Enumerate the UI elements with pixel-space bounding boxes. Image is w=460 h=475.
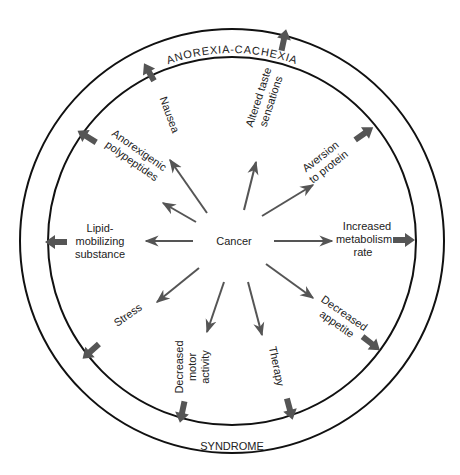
ring-title-bottom: SYNDROME bbox=[200, 440, 264, 452]
svg-text:substance: substance bbox=[75, 248, 125, 260]
factor-nausea: Nausea bbox=[158, 95, 183, 136]
factor-therapy: Therapy bbox=[267, 345, 287, 387]
thick-arrow-appetite bbox=[358, 331, 384, 356]
factor-anorexigenic: Anorexigenic polypeptides bbox=[102, 127, 169, 184]
factor-altered-taste: Altered taste sensations bbox=[243, 66, 286, 132]
factor-decreased-appetite: Decreased appetite bbox=[312, 293, 370, 344]
svg-text:Increased: Increased bbox=[343, 220, 391, 232]
svg-text:Therapy: Therapy bbox=[267, 345, 287, 387]
factor-lipid-mobilizing: Lipid- mobilizing substance bbox=[75, 222, 125, 260]
svg-text:activity: activity bbox=[199, 350, 211, 384]
svg-text:mobilizing: mobilizing bbox=[76, 235, 125, 247]
center-label-cancer: Cancer bbox=[216, 235, 252, 247]
svg-text:Nausea: Nausea bbox=[158, 95, 183, 136]
thin-arrows bbox=[146, 160, 332, 335]
svg-text:Stress: Stress bbox=[111, 301, 144, 329]
thick-arrow-metabolism bbox=[393, 233, 415, 247]
svg-text:metabolism: metabolism bbox=[336, 233, 392, 245]
anorexia-cachexia-diagram: ANOREXIA-CACHEXIA SYNDROME Cancer bbox=[0, 0, 460, 475]
factor-decreased-motor: Decreased motor activity bbox=[173, 340, 211, 393]
svg-text:motor: motor bbox=[186, 353, 198, 381]
factor-aversion-protein: Aversion to protein bbox=[299, 137, 351, 185]
svg-text:rate: rate bbox=[354, 246, 373, 258]
factor-stress: Stress bbox=[111, 301, 144, 329]
svg-text:Decreased: Decreased bbox=[173, 340, 185, 393]
svg-text:Lipid-: Lipid- bbox=[87, 222, 114, 234]
factor-increased-metabolism: Increased metabolism rate bbox=[336, 220, 392, 258]
thick-arrow-aversion bbox=[351, 122, 377, 146]
